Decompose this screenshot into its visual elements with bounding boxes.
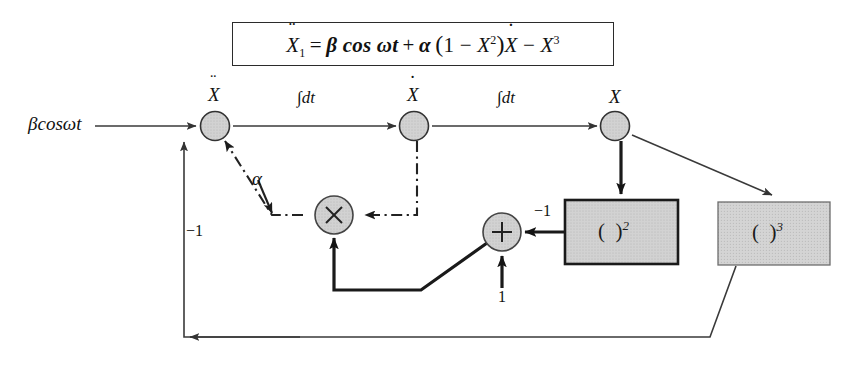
adder-node xyxy=(483,213,521,251)
figure-caption xyxy=(0,362,868,373)
node3-label: X xyxy=(609,86,621,108)
minus-one-square-label: −1 xyxy=(534,202,551,220)
multiplier-node xyxy=(315,196,353,234)
node-xdot xyxy=(400,112,429,141)
equation-text: X1 = β cos ωt + α (1 − X2)X − X3 xyxy=(286,31,560,58)
cube-block-label: ( )3 xyxy=(752,220,783,245)
node1-label: X xyxy=(208,84,220,106)
multiplier-to-node1-alpha-link xyxy=(225,141,303,215)
xdot-to-multiplier-link xyxy=(365,141,417,215)
node2-label: X xyxy=(407,84,419,106)
figure-canvas: X1 = β cos ωt + α (1 − X2)X − X3 βcosωt … xyxy=(0,0,868,373)
alpha-gain-label: α xyxy=(252,168,262,190)
minus-one-left-label: −1 xyxy=(186,222,203,240)
x-to-cube-link xyxy=(632,135,772,195)
equation-box: X1 = β cos ωt + α (1 − X2)X − X3 xyxy=(232,22,614,66)
integrator-label-2: ∫dt xyxy=(497,88,515,108)
adder-to-multiplier-link xyxy=(334,238,487,290)
node-x xyxy=(601,112,630,141)
unity-gain-label: 1 xyxy=(498,288,506,306)
input-label: βcosωt xyxy=(28,113,81,135)
square-block-label: ( )2 xyxy=(598,219,629,244)
integrator-label-1: ∫dt xyxy=(297,88,315,108)
node-xddot xyxy=(201,112,230,141)
